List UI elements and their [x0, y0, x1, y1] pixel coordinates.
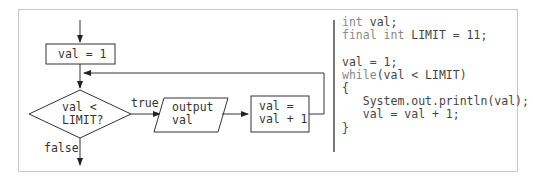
code-keyword: int	[342, 15, 363, 29]
code-text: LIMIT = 11;	[404, 28, 487, 42]
code-text: {	[342, 81, 349, 95]
code-line: val = val + 1;	[342, 108, 529, 121]
output-line1: output	[172, 100, 214, 114]
decision-line1: val <	[62, 100, 97, 114]
increment-line2: val + 1	[259, 112, 308, 126]
code-text: val = val + 1;	[342, 107, 460, 121]
code-keyword: while	[342, 68, 377, 82]
decision-line2: LIMIT?	[62, 113, 104, 127]
true-label: true	[131, 96, 159, 110]
code-text: val;	[363, 15, 398, 29]
code-keyword: final int	[342, 28, 404, 42]
code-block: int val;final int LIMIT = 11; val = 1;wh…	[342, 16, 529, 135]
increment-line1: val =	[259, 99, 294, 113]
false-label: false	[44, 141, 79, 155]
code-text: (val < LIMIT)	[377, 68, 467, 82]
output-line2: val	[172, 113, 193, 127]
code-text: val = 1;	[342, 55, 397, 69]
init-label: val = 1	[58, 47, 107, 61]
code-line: final int LIMIT = 11;	[342, 29, 529, 42]
code-text	[342, 41, 349, 55]
code-text: System.out.println(val);	[342, 94, 529, 108]
code-divider	[333, 20, 335, 152]
code-line: }	[342, 122, 529, 135]
code-line: while(val < LIMIT)	[342, 69, 529, 82]
code-text: }	[342, 121, 349, 135]
